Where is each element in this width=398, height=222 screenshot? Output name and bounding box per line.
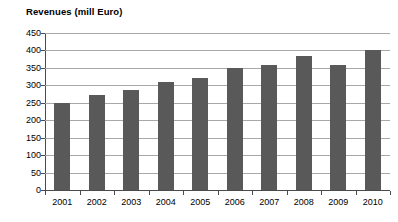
bar xyxy=(296,56,312,190)
x-axis-tick-mark xyxy=(45,191,46,195)
x-axis-tick-mark xyxy=(287,191,288,195)
y-axis-tick-label: 0 xyxy=(7,186,41,195)
bar xyxy=(158,82,174,190)
x-axis-tick-label: 2010 xyxy=(356,196,391,210)
y-axis-tick-label: 400 xyxy=(7,46,41,55)
x-axis-tick-label: 2008 xyxy=(287,196,322,210)
x-axis-tick-label: 2003 xyxy=(114,196,149,210)
plot-area xyxy=(45,33,390,190)
bar xyxy=(123,90,139,190)
bar-slot xyxy=(183,33,218,190)
bar-slot xyxy=(45,33,80,190)
bar xyxy=(54,103,70,190)
bar-slot xyxy=(114,33,149,190)
y-axis-tick-label: 300 xyxy=(7,81,41,90)
y-axis-tick-label: 350 xyxy=(7,63,41,72)
x-axis-tick-label: 2007 xyxy=(252,196,287,210)
y-axis-tick-label: 100 xyxy=(7,151,41,160)
x-axis-tick-label: 2004 xyxy=(149,196,184,210)
bar xyxy=(330,65,346,190)
y-axis-tick-label: 250 xyxy=(7,98,41,107)
bar-slot xyxy=(218,33,253,190)
y-axis-tick-label: 450 xyxy=(7,29,41,38)
bar xyxy=(261,65,277,190)
bar xyxy=(365,50,381,190)
x-axis-tick-mark xyxy=(80,191,81,195)
x-axis-tick-mark xyxy=(218,191,219,195)
y-axis-tick-label: 200 xyxy=(7,116,41,125)
bar-slot xyxy=(321,33,356,190)
bar-slot xyxy=(149,33,184,190)
bar-chart: Revenues (mill Euro) 4504003503002502001… xyxy=(0,0,398,222)
x-axis-tick-mark xyxy=(114,191,115,195)
bar xyxy=(89,95,105,190)
bar-series xyxy=(45,33,390,190)
x-axis-tick-label: 2005 xyxy=(183,196,218,210)
x-axis-tick-mark xyxy=(149,191,150,195)
x-axis-tick-marks xyxy=(45,191,390,195)
x-axis-tick-label: 2006 xyxy=(218,196,253,210)
bar-slot xyxy=(287,33,322,190)
y-axis-tick-labels: 450400350300250200150100500 xyxy=(5,33,41,190)
x-axis-tick-mark xyxy=(321,191,322,195)
x-axis-tick-mark xyxy=(356,191,357,195)
x-axis-tick-mark xyxy=(183,191,184,195)
bar-slot xyxy=(356,33,391,190)
bar xyxy=(192,78,208,190)
bar-slot xyxy=(80,33,115,190)
x-axis-tick-mark xyxy=(390,191,391,195)
x-axis-tick-label: 2001 xyxy=(45,196,80,210)
x-axis-tick-label: 2009 xyxy=(321,196,356,210)
bar-slot xyxy=(252,33,287,190)
chart-title: Revenues (mill Euro) xyxy=(26,6,123,17)
x-axis-tick-labels: 2001200220032004200520062007200820092010 xyxy=(45,196,390,210)
bar xyxy=(227,68,243,190)
y-axis-tick-label: 50 xyxy=(7,168,41,177)
x-axis-tick-label: 2002 xyxy=(80,196,115,210)
y-axis-tick-label: 150 xyxy=(7,133,41,142)
x-axis-tick-mark xyxy=(252,191,253,195)
